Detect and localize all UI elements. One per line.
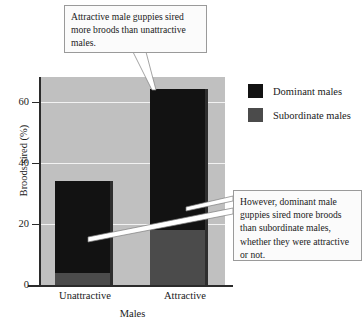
legend-swatch-subordinate [248, 108, 263, 122]
x-tick-label-attractive: Attractive [125, 290, 245, 301]
chart-figure: 60 40 20 0 Broods sired (%) Unattractive… [0, 0, 362, 323]
y-tick-mark-20 [32, 224, 39, 226]
bar-segment-subordinate-attractive [150, 230, 208, 285]
x-axis-title: Males [0, 308, 265, 319]
legend-label-subordinate: Subordinate males [273, 110, 351, 121]
y-axis-line [39, 77, 41, 286]
callout-top: Attractive male guppies sired more brood… [64, 5, 207, 53]
bar-segment-dominant-unattractive [55, 181, 113, 273]
bar-attractive [150, 89, 208, 285]
y-tick-mark-40 [32, 163, 39, 165]
y-tick-mark-60 [32, 102, 39, 104]
legend: Dominant males Subordinate males [248, 84, 351, 132]
plot-area [40, 77, 225, 285]
y-tick-label-20: 20 [19, 219, 30, 230]
legend-swatch-dominant [248, 84, 263, 98]
callout-right: However, dominant male guppies sired mor… [233, 190, 362, 261]
bar-unattractive [55, 181, 113, 285]
legend-label-dominant: Dominant males [273, 86, 342, 97]
x-axis-line [28, 285, 233, 287]
legend-item-dominant-males: Dominant males [248, 84, 351, 98]
y-tick-mark-0 [32, 285, 39, 287]
y-axis-title: Broods sired (%) [18, 101, 29, 221]
bar-segment-subordinate-unattractive [55, 273, 113, 285]
y-tick-label-0: 0 [24, 280, 29, 291]
legend-item-subordinate-males: Subordinate males [248, 108, 351, 122]
bar-segment-dominant-attractive [150, 89, 208, 230]
